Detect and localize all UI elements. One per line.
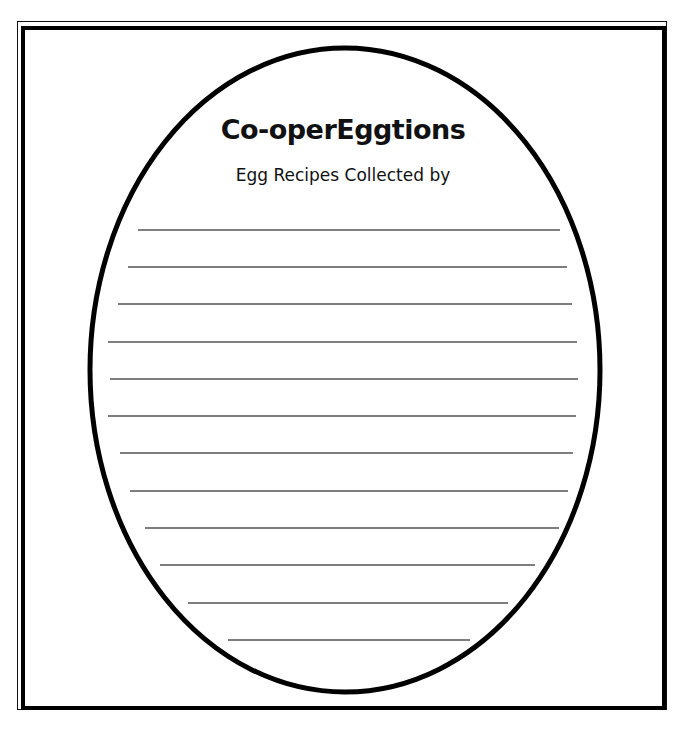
page-title: Co-operEggtions: [0, 114, 686, 145]
egg-outline-with-lines: [0, 0, 686, 729]
writing-lines: [108, 230, 578, 640]
page-subtitle: Egg Recipes Collected by: [0, 165, 686, 185]
